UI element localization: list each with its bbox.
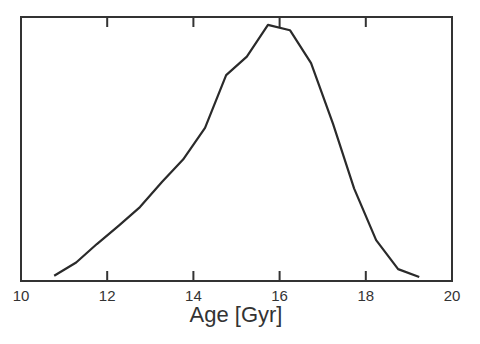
- tick-marks: [107, 17, 366, 281]
- x-axis-title: Age [Gyr]: [190, 302, 283, 327]
- x-tick-label: 18: [357, 287, 374, 304]
- data-line: [54, 25, 419, 277]
- x-tick-label: 10: [13, 287, 30, 304]
- chart: 101214161820 Age [Gyr]: [0, 0, 480, 344]
- x-tick-label: 20: [444, 287, 461, 304]
- x-tick-label: 12: [99, 287, 116, 304]
- plot-frame: [21, 17, 452, 281]
